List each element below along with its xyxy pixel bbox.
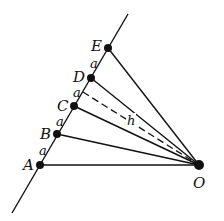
diagram-canvas: A B C D E O a a a a h bbox=[0, 0, 224, 221]
point-B bbox=[53, 130, 61, 138]
label-CD-a: a bbox=[73, 85, 81, 100]
label-C: C bbox=[57, 97, 69, 115]
label-h: h bbox=[127, 113, 135, 128]
label-E: E bbox=[90, 37, 102, 55]
point-C bbox=[70, 102, 78, 110]
point-D bbox=[87, 74, 95, 82]
label-B: B bbox=[39, 125, 51, 143]
point-O bbox=[194, 160, 204, 170]
height-dashed-line bbox=[83, 92, 199, 165]
label-A: A bbox=[21, 156, 34, 174]
label-AB-a: a bbox=[39, 143, 47, 158]
geometry-diagram: A B C D E O a a a a h bbox=[0, 0, 224, 221]
label-BC-a: a bbox=[56, 114, 64, 129]
point-A bbox=[36, 161, 44, 169]
base-line bbox=[12, 14, 128, 213]
label-O: O bbox=[193, 174, 205, 192]
label-DE-a: a bbox=[90, 56, 98, 71]
point-E bbox=[104, 44, 112, 52]
label-D: D bbox=[72, 68, 85, 86]
